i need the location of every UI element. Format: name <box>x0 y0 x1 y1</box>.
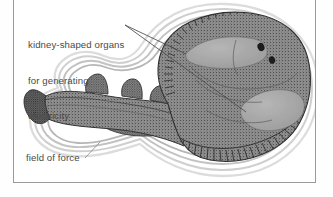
second-dorsal-fin <box>122 79 143 99</box>
field-of-force-label: field of force <box>26 152 80 164</box>
organs-label-line-1: kidney-shaped organs <box>28 39 124 51</box>
organs-label-line-3: electricity <box>28 110 124 122</box>
figure-panel: kidney-shaped organs for generating elec… <box>0 0 333 197</box>
kidney-shaped-organs-label: kidney-shaped organs for generating elec… <box>28 16 124 145</box>
ray-disc-body <box>158 7 310 162</box>
organs-label-line-2: for generating <box>28 75 124 87</box>
